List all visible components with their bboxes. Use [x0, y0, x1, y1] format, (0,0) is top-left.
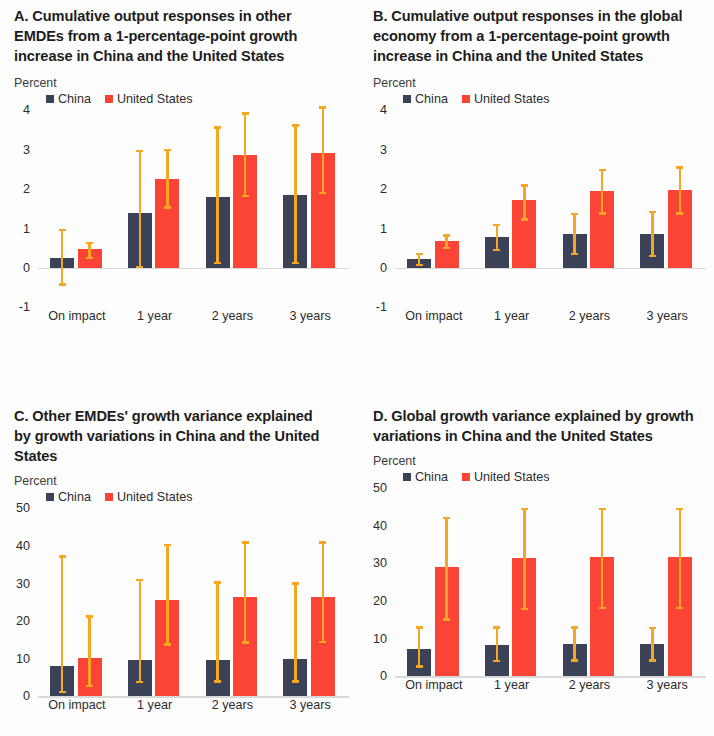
error-bar-cap-bottom: [86, 257, 93, 259]
legend-item-united-states: United States: [462, 92, 550, 106]
error-bar-cap-top: [443, 234, 450, 236]
error-bar: [418, 626, 421, 667]
panel-c-x-axis: On impact1 year2 years3 years: [38, 698, 349, 718]
error-bar: [445, 517, 448, 621]
legend-label-china: China: [415, 470, 448, 484]
error-bar-cap-top: [649, 627, 656, 629]
error-bar-cap-bottom: [521, 218, 528, 220]
error-bar: [496, 626, 499, 662]
panel-c-plot-area: 01020304050 On impact1 year2 years3 year…: [0, 490, 357, 696]
error-bar: [88, 615, 91, 687]
x-axis-label: On impact: [405, 678, 462, 692]
error-bar-cap-top: [676, 508, 683, 510]
error-bar-cap-top: [242, 112, 249, 114]
legend-label-china: China: [58, 92, 91, 106]
panel-c-axis-unit: Percent: [0, 474, 357, 488]
x-axis-label: 3 years: [646, 309, 687, 323]
legend-label-china: China: [58, 490, 91, 504]
panel-c-plot: China United States 01020304050 On impac…: [0, 490, 357, 696]
error-bar-cap-bottom: [86, 685, 93, 687]
error-bar-cap-top: [59, 555, 66, 557]
figure-container: A. Cumulative output responses in other …: [0, 0, 714, 736]
error-bar-cap-bottom: [59, 283, 66, 285]
panel-a-axis-unit: Percent: [0, 76, 357, 90]
legend-swatch-china-icon: [403, 95, 411, 103]
error-bar: [322, 106, 325, 194]
y-axis-tick: 4: [0, 103, 30, 117]
error-bar: [601, 169, 604, 215]
error-bar-cap-top: [59, 229, 66, 231]
error-bar: [244, 541, 247, 643]
error-bar-cap-top: [676, 166, 683, 168]
error-bar-cap-bottom: [292, 680, 299, 682]
error-bar: [523, 184, 526, 220]
error-bar-cap-bottom: [214, 680, 221, 682]
error-bar-cap-top: [292, 582, 299, 584]
error-bar-cap-bottom: [493, 660, 500, 662]
error-bar-cap-top: [521, 184, 528, 186]
panel-d-legend: China United States: [403, 470, 550, 484]
panel-d-y-axis: 01020304050: [357, 470, 387, 676]
x-axis-label: On impact: [405, 309, 462, 323]
y-axis-tick: -1: [357, 300, 387, 314]
x-axis-label: 2 years: [212, 309, 253, 323]
panel-b-bars: [395, 92, 706, 307]
error-bar-cap-top: [242, 541, 249, 543]
y-axis-tick: 30: [0, 577, 30, 591]
y-axis-tick: 20: [0, 614, 30, 628]
panel-d-title: D. Global growth variance explained by g…: [357, 400, 714, 446]
error-bar: [61, 555, 64, 693]
error-bar-cap-top: [319, 541, 326, 543]
x-axis-label: 3 years: [289, 698, 330, 712]
y-axis-tick: 3: [0, 143, 30, 157]
legend-swatch-china-icon: [46, 95, 54, 103]
panel-c-title: C. Other EMDEs' growth variance explaine…: [0, 400, 357, 466]
error-bar-cap-bottom: [521, 608, 528, 610]
y-axis-tick: 0: [0, 261, 30, 275]
panel-b: B. Cumulative output responses in the gl…: [357, 0, 714, 368]
error-bar: [216, 581, 219, 683]
panel-b-plot-area: -101234 On impact1 year2 years3 years: [357, 92, 714, 307]
error-bar-cap-bottom: [599, 607, 606, 609]
error-bar-cap-top: [292, 124, 299, 126]
panel-c-legend: China United States: [46, 490, 193, 504]
error-bar-cap-bottom: [136, 681, 143, 683]
error-bar-cap-bottom: [493, 249, 500, 251]
error-bar-cap-bottom: [416, 665, 423, 667]
panel-b-plot: China United States -101234 On impact1 y…: [357, 92, 714, 307]
error-bar: [294, 582, 297, 682]
error-bar: [61, 229, 64, 286]
panel-c: C. Other EMDEs' growth variance explaine…: [0, 400, 357, 736]
error-bar-cap-bottom: [214, 262, 221, 264]
error-bar: [244, 112, 247, 197]
error-bar-cap-bottom: [443, 247, 450, 249]
error-bar-cap-top: [136, 579, 143, 581]
x-axis-label: 2 years: [212, 698, 253, 712]
error-bar-cap-top: [86, 615, 93, 617]
error-bar-cap-top: [214, 126, 221, 128]
legend-item-china: China: [403, 470, 448, 484]
panel-a-x-axis: On impact1 year2 years3 years: [38, 309, 349, 329]
legend-swatch-china-icon: [403, 473, 411, 481]
panel-c-bars: [38, 490, 349, 696]
legend-label-united-states: United States: [117, 490, 193, 504]
panel-d: D. Global growth variance explained by g…: [357, 400, 714, 736]
error-bar: [322, 541, 325, 643]
x-axis-label: 3 years: [646, 678, 687, 692]
error-bar: [294, 124, 297, 264]
y-axis-tick: 50: [357, 481, 387, 495]
panel-a-plot-area: -101234 On impact1 year2 years3 years: [0, 92, 357, 307]
error-bar-cap-top: [164, 544, 171, 546]
error-bar-cap-bottom: [319, 641, 326, 643]
error-bar-cap-bottom: [164, 643, 171, 645]
y-axis-tick: -1: [0, 300, 30, 314]
panel-a: A. Cumulative output responses in other …: [0, 0, 357, 368]
y-axis-tick: 0: [357, 261, 387, 275]
y-axis-tick: 1: [0, 222, 30, 236]
y-axis-tick: 40: [357, 519, 387, 533]
panel-b-x-axis: On impact1 year2 years3 years: [395, 309, 706, 329]
error-bar: [166, 149, 169, 209]
x-axis-label: On impact: [48, 309, 105, 323]
legend-item-united-states: United States: [105, 92, 193, 106]
legend-swatch-china-icon: [46, 493, 54, 501]
